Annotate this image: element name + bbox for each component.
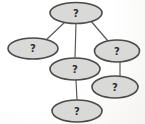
node-right: ?: [95, 40, 140, 62]
edge-root-to-middle: [75, 23, 76, 58]
node-root-label: ?: [73, 8, 79, 19]
node-middle-label: ?: [72, 64, 78, 75]
node-right-label: ?: [114, 46, 120, 57]
node-middle: ?: [50, 58, 100, 80]
node-bottom-label: ?: [74, 106, 80, 117]
edge-root-to-right: [90, 20, 108, 41]
node-left: ?: [8, 38, 58, 59]
edge-middle-to-bottom: [76, 80, 77, 100]
node-left-label: ?: [30, 43, 36, 54]
node-bottom-right: ?: [92, 76, 138, 98]
edge-root-to-left: [45, 22, 65, 41]
question-tree-diagram: ??????: [0, 0, 145, 124]
node-bottom: ?: [52, 100, 102, 122]
diagram-container: ??????: [0, 0, 145, 124]
node-root: ?: [50, 3, 102, 24]
node-bottom-right-label: ?: [112, 82, 118, 93]
